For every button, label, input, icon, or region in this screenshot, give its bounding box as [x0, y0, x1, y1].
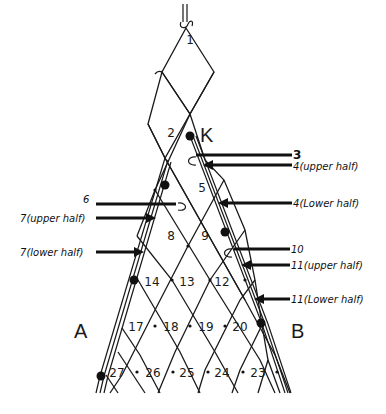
- label-7-lower: 7(lower half): [20, 247, 83, 258]
- label-11-lower: 11(Lower half): [291, 294, 364, 305]
- mesh-number: 24: [214, 366, 229, 380]
- label-4-lower: 4(Lower half): [293, 198, 359, 209]
- mesh-number: 23: [250, 366, 265, 380]
- label-6: 6: [83, 194, 89, 205]
- knot-9: [221, 228, 230, 237]
- mesh-numbers: 12589141312171819202726252423: [109, 33, 265, 380]
- loop-hook-icon: [178, 203, 186, 210]
- mesh-number: 13: [179, 275, 194, 289]
- mesh-number: 17: [128, 320, 143, 334]
- mesh-number: 14: [144, 275, 159, 289]
- mesh-number: 5: [198, 181, 206, 195]
- knot-14: [130, 276, 139, 285]
- mesh-number: 1: [186, 33, 194, 47]
- label-11-upper: 11(upper half): [291, 260, 363, 271]
- mesh-number: 19: [198, 320, 213, 334]
- arrowhead-icon: [241, 260, 251, 270]
- label-3: 3: [293, 148, 301, 162]
- knots: [97, 132, 279, 381]
- left-selvedge: [96, 158, 171, 393]
- mesh-number: 20: [232, 320, 247, 334]
- side-label-a: A: [74, 320, 88, 342]
- side-label-b: B: [291, 320, 304, 342]
- knot-5: [161, 181, 170, 190]
- mesh-number: 8: [167, 229, 175, 243]
- mesh-number: 27: [109, 366, 124, 380]
- mesh-number: 25: [179, 366, 194, 380]
- left-arrows: [96, 204, 176, 257]
- loop-hook-icon: [189, 157, 197, 165]
- knot-k: [186, 132, 195, 141]
- mesh-number: 12: [214, 275, 229, 289]
- knot-20: [257, 319, 266, 328]
- mesh-lines: [106, 28, 290, 393]
- arrowhead-icon: [146, 213, 156, 223]
- mesh-number: 2: [167, 126, 175, 140]
- hanging-hook-icon: [180, 4, 192, 28]
- left-labels: 6 7(upper half) 7(lower half): [20, 194, 89, 258]
- mesh-number: 9: [201, 229, 209, 243]
- label-10: 10: [291, 244, 304, 255]
- mesh-number: 26: [145, 366, 160, 380]
- label-4-upper: 4(upper half): [293, 161, 358, 172]
- right-labels: 3 4(upper half) 4(Lower half) 10 11(uppe…: [291, 148, 364, 305]
- arrowhead-icon: [134, 247, 144, 257]
- corner-label-k: K: [200, 124, 214, 146]
- mesh-number: 18: [163, 320, 178, 334]
- knot-27: [97, 372, 106, 381]
- label-7-upper: 7(upper half): [20, 213, 85, 224]
- net-mesh-diagram: K A B 12589141312171819202726252423 3 4(…: [0, 0, 386, 414]
